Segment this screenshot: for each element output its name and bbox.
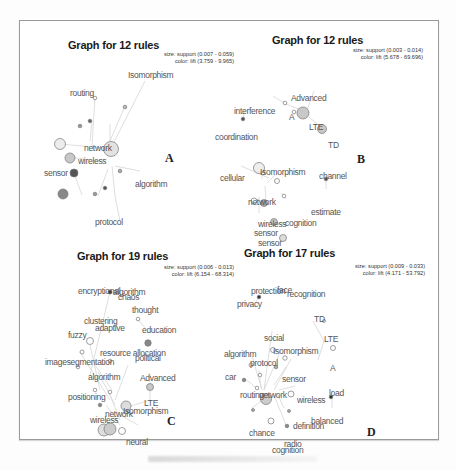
panel-label: C	[167, 414, 176, 429]
node-chance: chance	[249, 428, 275, 438]
panel-d: Graph for 17 rules size: support (0.009 …	[229, 230, 438, 439]
node-neural: neural	[126, 437, 148, 447]
node-chaos: chaos	[118, 292, 139, 302]
panel-label: B	[357, 152, 365, 167]
node-wireless: wireless	[296, 395, 325, 405]
node-network: network	[259, 390, 288, 400]
panel-label: D	[367, 425, 376, 440]
node-social: social	[264, 333, 284, 343]
panel-c: Graph for 19 rules size: support (0.006 …	[20, 230, 229, 439]
node-estimate: estimate	[311, 207, 341, 217]
node-a: A	[330, 363, 336, 373]
node-coordination: coordination	[215, 132, 258, 142]
node-advanced: Advanced	[291, 93, 327, 103]
figure-caption	[148, 456, 318, 462]
panel-label: A	[165, 151, 174, 166]
node-fuzzy: fuzzy	[68, 330, 87, 340]
node-sensor-top: sensor	[254, 228, 278, 238]
node-isomorphism: Isomorphism	[273, 346, 319, 356]
node-political: political	[135, 353, 161, 363]
node-td: TD	[328, 140, 339, 150]
node-a: A	[289, 112, 295, 122]
node-sensor: sensor	[44, 168, 68, 178]
network-graph: Isomorphism routing network wireless sen…	[20, 21, 229, 230]
panel-b: Graph for 12 rules size: support (0.003 …	[229, 21, 438, 230]
node-positioning: positioning	[68, 392, 106, 402]
figure-frame: Graph for 12 rules size: support (0.007 …	[19, 20, 439, 440]
node-load: load	[329, 388, 344, 398]
node-interference: interference	[234, 106, 276, 116]
node-cellular: cellular	[220, 173, 245, 183]
node-channel: channel	[319, 171, 347, 181]
node-advanced: Advanced	[140, 373, 176, 383]
node-lte: LTE	[324, 334, 339, 344]
node-cognition: cognition	[285, 218, 317, 228]
node-cognition: cognition	[272, 445, 304, 455]
node-education: education	[142, 325, 177, 335]
node-isomorphism: Isomorphism	[128, 70, 174, 80]
node-routing: routing	[70, 88, 94, 98]
node-algorithm: algorithm	[88, 372, 120, 382]
node-isomorphism: Isomorphism	[123, 406, 169, 416]
node-car: car	[225, 372, 236, 382]
node-sensor: sensor	[282, 374, 306, 384]
node-lte: LTE	[309, 122, 324, 132]
node-network: network	[84, 143, 113, 153]
network-graph: encryptional algorithm chaos thought clu…	[20, 230, 229, 439]
node-privacy: privacy	[237, 299, 263, 309]
node-protocol: protocol	[95, 217, 123, 227]
node-isomorphism: Isomorphism	[260, 167, 306, 177]
node-wireless: wireless	[77, 156, 106, 166]
network-graph: Advanced interference A LTE TD coordinat…	[229, 21, 438, 230]
node-definition: definition	[293, 421, 325, 431]
node-td: TD	[314, 314, 325, 324]
node-recognition: recognition	[287, 289, 326, 299]
node-network: network	[248, 197, 277, 207]
node-imagesegmentation: imagesegmentation	[45, 357, 115, 367]
node-algorithm: algorithm	[135, 179, 167, 189]
panel-a: Graph for 12 rules size: support (0.007 …	[20, 21, 229, 230]
node-thought: thought	[132, 305, 159, 315]
node-adaptive: adaptive	[95, 323, 125, 333]
node-wireless: wireless	[89, 415, 118, 425]
node-protocol: protocol	[250, 358, 278, 368]
network-graph: sensor protection face recognition priva…	[229, 230, 438, 439]
